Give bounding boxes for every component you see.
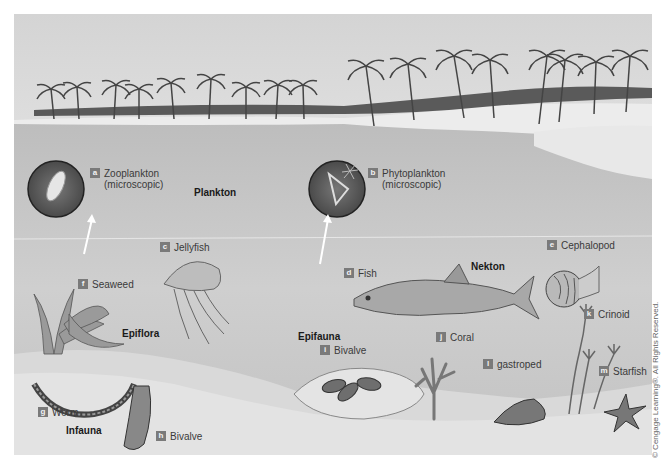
label-phytoplankton: b Phytoplankton(microscopic) [368, 168, 445, 190]
label-bivalve-infauna: h Bivalve [156, 431, 202, 442]
letter-badge: d [344, 268, 354, 278]
letter-badge: k [584, 309, 594, 319]
letter-badge: b [368, 168, 378, 178]
label-cephalopod: e Cephalopod [547, 240, 615, 251]
letter-badge: a [90, 168, 100, 178]
letter-badge: h [156, 431, 166, 441]
zone-infauna-label: Infauna [66, 425, 102, 436]
zone-nekton-label: Nekton [471, 261, 505, 272]
label-crinoid: k Crinoid [584, 309, 630, 320]
letter-badge: j [436, 332, 446, 342]
label-jellyfish: c Jellyfish [160, 242, 210, 253]
letter-badge: l [483, 359, 493, 369]
label-coral: j Coral [436, 332, 474, 343]
letter-badge: c [160, 242, 170, 252]
letter-badge: g [38, 407, 48, 417]
letter-badge: f [78, 279, 88, 289]
label-bivalve-epifauna: i Bivalve [320, 345, 366, 356]
label-starfish: m Starfish [599, 366, 647, 377]
illustration-frame: Plankton Nekton Epiflora Epifauna Infaun… [14, 14, 652, 455]
letter-badge: m [599, 366, 609, 376]
ocean-scene-illustration [14, 14, 652, 455]
letter-badge: i [320, 345, 330, 355]
zone-epiflora-label: Epiflora [122, 328, 159, 339]
label-gastropod: l gastroped [483, 359, 541, 370]
label-zooplankton: a Zooplankton(microscopic) [90, 168, 163, 190]
zone-plankton-label: Plankton [194, 187, 236, 198]
letter-badge: e [547, 240, 557, 250]
label-fish: d Fish [344, 268, 377, 279]
label-seaweed: f Seaweed [78, 279, 134, 290]
zone-epifauna-label: Epifauna [298, 331, 340, 342]
copyright-notice: © Cengage Learning®. All Rights Reserved… [651, 302, 660, 458]
label-worm: g Worm [38, 407, 78, 418]
